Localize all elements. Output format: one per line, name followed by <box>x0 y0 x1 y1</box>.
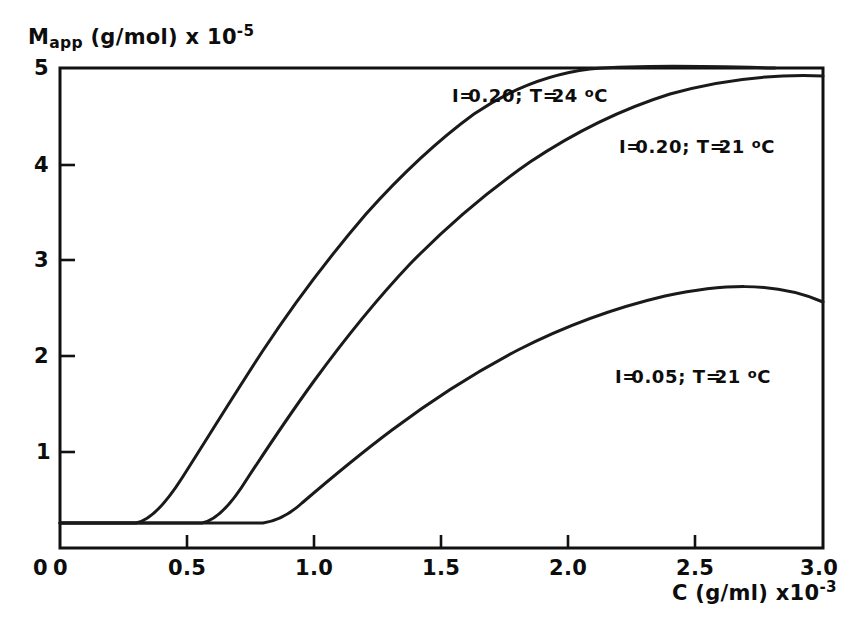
y-axis-title-units: (g/mol) x 10 <box>83 25 237 49</box>
curve-label-series-2: I=0.20; T=21 oC <box>619 136 775 157</box>
y-axis-title: Mapp (g/mol) x 10-5 <box>28 22 254 52</box>
y-tick-label-1: 1 <box>36 440 51 464</box>
curve-label-series-1: I=0.20; T=24 oC <box>452 85 608 106</box>
curve-label-series-3: I=0.05; T=21 oC <box>615 366 771 387</box>
label-1-temp: T <box>530 85 543 106</box>
x-tick-label-0-5: 0.5 <box>168 556 206 580</box>
x-tick-label-2-5: 2.5 <box>676 556 714 580</box>
x-axis-title: C (g/ml) x10-3 <box>672 578 837 605</box>
x-axis-title-times: x10 <box>768 581 819 605</box>
label-1-ion-value: 0.20 <box>468 85 515 106</box>
x-axis-title-main: C (g/ml) <box>672 581 768 605</box>
y-tick-label-2: 2 <box>34 344 49 368</box>
chart-figure: Mapp (g/mol) x 10-5 C (g/ml) x10-3 5 4 3… <box>0 0 849 637</box>
x-tick-label-1-0: 1.0 <box>295 556 333 580</box>
label-1-sep: ; <box>515 85 523 106</box>
x-axis-title-exponent: -3 <box>819 578 836 596</box>
x-tick-label-2-0: 2.0 <box>549 556 587 580</box>
label-1-temp-value: 24 <box>552 85 578 106</box>
label-2-temp: T <box>697 136 710 157</box>
label-3-unit: C <box>757 366 771 387</box>
label-2-ion: I <box>619 136 626 157</box>
label-2-ion-value: 0.20 <box>635 136 682 157</box>
degree-icon: o <box>752 136 762 151</box>
label-1-unit: C <box>594 85 608 106</box>
degree-icon: o <box>748 366 758 381</box>
x-tick-label-1-5: 1.5 <box>422 556 460 580</box>
label-3-ion: I <box>615 366 622 387</box>
label-3-temp-value: 21 <box>715 366 741 387</box>
label-2-unit: C <box>761 136 775 157</box>
label-2-sep: ; <box>682 136 690 157</box>
x-axis-ticks <box>187 535 695 548</box>
degree-icon: o <box>585 85 595 100</box>
x-tick-label-3-0: 3.0 <box>800 556 838 580</box>
y-tick-label-3: 3 <box>34 248 49 272</box>
chart-canvas <box>0 0 849 637</box>
label-3-sep: ; <box>678 366 686 387</box>
label-3-ion-value: 0.05 <box>631 366 678 387</box>
label-1-ion: I <box>452 85 459 106</box>
y-axis-title-subscript: app <box>49 34 83 52</box>
y-tick-label-5: 5 <box>34 56 49 80</box>
label-2-temp-value: 21 <box>719 136 745 157</box>
y-tick-label-4: 4 <box>34 153 49 177</box>
y-axis-ticks <box>60 165 75 452</box>
label-3-temp: T <box>693 366 706 387</box>
y-axis-title-exponent: -5 <box>237 22 254 40</box>
y-axis-title-main: M <box>28 25 49 49</box>
x-tick-label-0: 0 <box>53 556 68 580</box>
y-tick-label-0: 0 <box>33 556 48 580</box>
